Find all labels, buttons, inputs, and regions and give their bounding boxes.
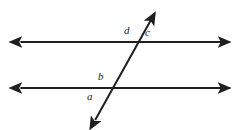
geometry-diagram: d c b a — [0, 0, 247, 130]
angle-label-d: d — [124, 25, 130, 36]
angle-label-c: c — [145, 27, 150, 38]
diagram-canvas — [0, 0, 247, 130]
angle-label-b: b — [98, 71, 104, 82]
angle-label-a: a — [87, 91, 93, 102]
